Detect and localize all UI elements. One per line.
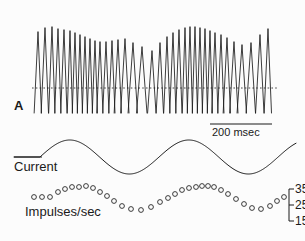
- figure-panel-a: A 200 msec Current Impulses/sec 352515: [0, 0, 305, 241]
- rate-axis-tick-35: 35: [295, 183, 305, 195]
- impulses-per-sec-label: Impulses/sec: [25, 205, 101, 218]
- rate-axis-tick-25: 25: [295, 199, 305, 211]
- panel-letter-a: A: [14, 99, 24, 112]
- current-trace-label: Current: [14, 160, 57, 173]
- rate-axis-bracket: [289, 189, 294, 221]
- rate-axis-tick-15: 15: [295, 215, 305, 227]
- scale-bar-label: 200 msec: [212, 127, 260, 138]
- spike-train-group: [34, 27, 271, 113]
